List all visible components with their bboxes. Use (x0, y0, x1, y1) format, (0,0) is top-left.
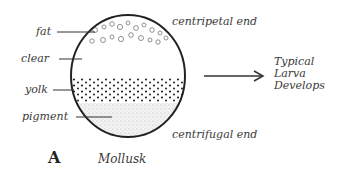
yolk-label: yolk (25, 83, 48, 96)
caption-mollusk: Mollusk (98, 152, 146, 166)
centripetal-end-label: centripetal end (172, 15, 257, 28)
centrifugal-end-label: centrifugal end (172, 128, 257, 141)
fat-droplets (90, 21, 168, 44)
outcome-text: Typical Larva Develops (274, 56, 325, 92)
clear-label: clear (21, 52, 49, 65)
panel-letter: A (48, 148, 60, 167)
pigment-label: pigment (22, 110, 68, 123)
yolk-region (60, 78, 200, 102)
outcome-line-3: Develops (274, 80, 325, 92)
fat-label: fat (36, 25, 51, 38)
